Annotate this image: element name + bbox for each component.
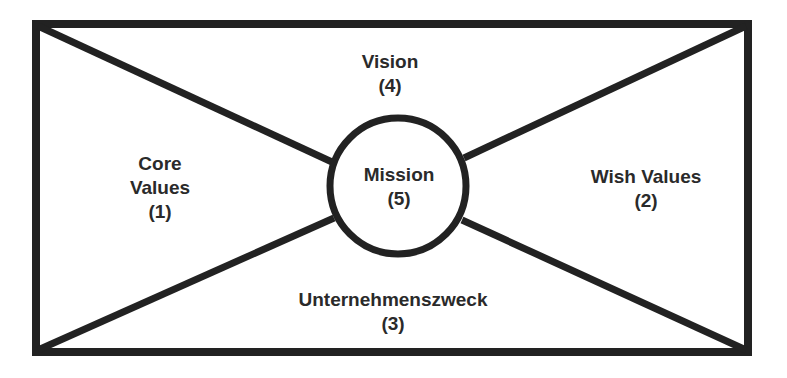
core-values-number: (1) (130, 200, 190, 224)
vision-title: Vision (362, 50, 419, 74)
diagonal-top-left (38, 26, 332, 162)
wish-values-label: Wish Values (2) (591, 165, 702, 213)
wish-values-title: Wish Values (591, 165, 702, 189)
mission-number: (5) (364, 187, 435, 211)
wish-values-number: (2) (591, 189, 702, 213)
diagonal-bottom-left (38, 218, 334, 350)
unternehmenszweck-title: Unternehmenszweck (298, 288, 487, 312)
core-values-label: Core Values (1) (130, 152, 190, 224)
vision-number: (4) (362, 74, 419, 98)
vision-label: Vision (4) (362, 50, 419, 98)
core-values-title-line2: Values (130, 176, 190, 200)
diagonal-bottom-right (462, 220, 746, 350)
unternehmenszweck-label: Unternehmenszweck (3) (298, 288, 487, 336)
mission-title: Mission (364, 163, 435, 187)
core-values-title-line1: Core (130, 152, 190, 176)
unternehmenszweck-number: (3) (298, 312, 487, 336)
mission-label: Mission (5) (364, 163, 435, 211)
diagonal-top-right (464, 26, 746, 158)
